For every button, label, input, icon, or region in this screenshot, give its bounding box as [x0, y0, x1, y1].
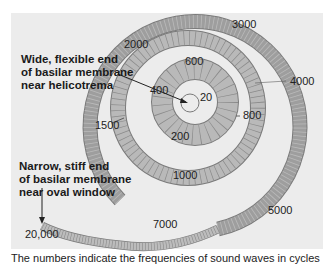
- freq-label-400: 400: [150, 85, 168, 96]
- freq-label-1500: 1500: [95, 120, 119, 131]
- freq-label-200: 200: [171, 131, 189, 142]
- freq-label-20: 20: [200, 92, 212, 103]
- base-annotation: Narrow, stiff end of basilar membrane ne…: [19, 160, 131, 199]
- apex-annotation: Wide, flexible end of basilar membrane n…: [21, 53, 133, 92]
- freq-label-7000: 7000: [153, 219, 177, 230]
- freq-label-3000: 3000: [232, 19, 256, 30]
- freq-label-600: 600: [185, 56, 203, 67]
- freq-label-4000: 4000: [290, 76, 314, 87]
- freq-label-1000: 1000: [173, 170, 197, 181]
- figure-caption: The numbers indicate the frequencies of …: [11, 252, 320, 264]
- freq-label-800: 800: [243, 110, 261, 121]
- freq-label-20000: 20,000: [25, 229, 59, 240]
- freq-label-2000: 2000: [124, 39, 148, 50]
- freq-label-5000: 5000: [268, 205, 292, 216]
